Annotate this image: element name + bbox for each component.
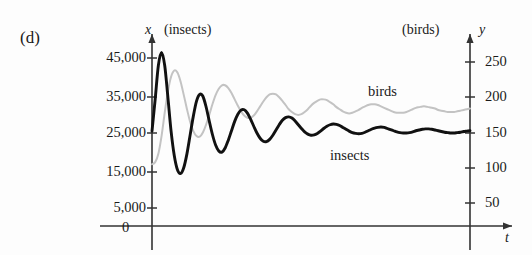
right-tick-50: 50: [485, 194, 500, 211]
left-tick-45000: 45,000: [60, 49, 146, 66]
right-axis-variable: y: [479, 22, 485, 38]
origin-label: 0: [122, 219, 129, 236]
left-axis-variable: x: [145, 22, 151, 38]
series-label-insects: insects: [330, 147, 369, 164]
right-tick-200: 200: [485, 88, 507, 105]
right-tick-100: 100: [485, 159, 507, 176]
left-axis-unit-label: (insects): [164, 22, 211, 38]
bottom-axis-variable: t: [505, 230, 509, 246]
series-curve-birds: [152, 70, 470, 164]
figure-panel-d: (d) x (insects) (birds) y t 0 birds inse…: [0, 0, 532, 255]
left-tick-35000: 35,000: [60, 88, 146, 105]
left-tick-5000: 5,000: [60, 199, 146, 216]
left-tick-15000: 15,000: [60, 163, 146, 180]
right-axis-unit-label: (birds): [402, 22, 439, 38]
left-tick-25000: 25,000: [60, 124, 146, 141]
bottom-axis-arrow: [503, 222, 512, 229]
right-tick-250: 250: [485, 53, 507, 70]
series-curve-insects: [152, 52, 470, 173]
right-axis-arrow: [466, 34, 473, 43]
series-label-birds: birds: [368, 83, 397, 100]
right-tick-150: 150: [485, 124, 507, 141]
